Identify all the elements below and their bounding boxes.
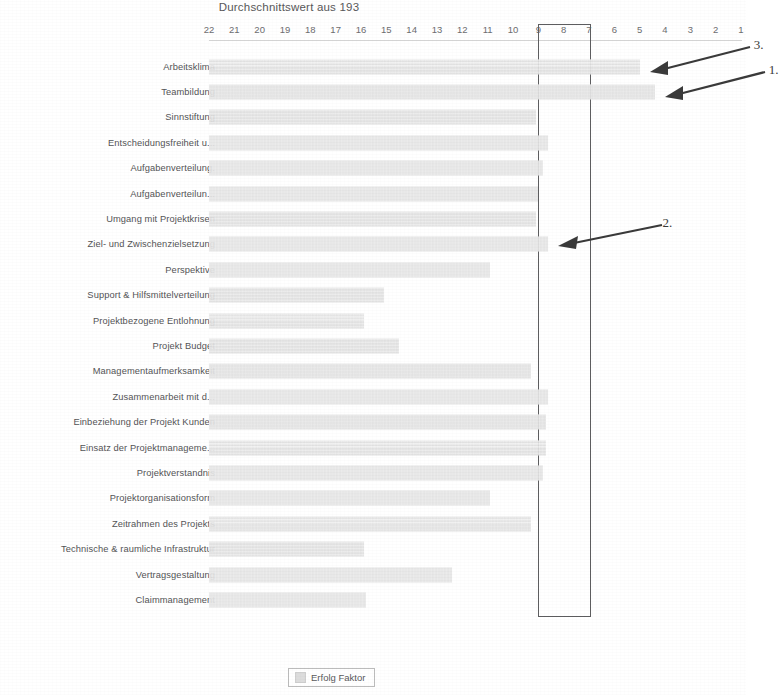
category-label: Projektbezogene Entlohnung [93, 316, 215, 326]
category-label: Projekt Budget [153, 341, 215, 351]
x-tick-17: 17 [330, 24, 341, 35]
bar [209, 186, 538, 201]
bar-row: Projekt Budget [0, 333, 746, 358]
bar [209, 389, 548, 404]
x-tick-15: 15 [381, 24, 392, 35]
x-tick-21: 21 [229, 24, 240, 35]
category-label: Zusammenarbeit mit d... [112, 392, 215, 402]
bar [209, 85, 655, 100]
x-axis-tick-labels: 22212019181716151413121110987654321 [0, 24, 746, 38]
x-tick-11: 11 [483, 24, 493, 35]
bar [209, 440, 546, 455]
category-label: Einsatz der Projektmanageme... [80, 443, 215, 453]
chart-legend: Erfolg Faktor [288, 668, 375, 687]
bar-row: Perspektive [0, 257, 746, 282]
x-tick-5: 5 [637, 24, 642, 35]
x-tick-13: 13 [432, 24, 443, 35]
x-tick-19: 19 [280, 24, 291, 35]
category-label: Aufgabenverteilun... [130, 189, 215, 199]
bar [209, 364, 531, 379]
chart-title-text: Durchschnittswert aus 193 [219, 1, 360, 13]
x-tick-20: 20 [254, 24, 265, 35]
category-label: Entscheidungsfreiheit u... [108, 138, 215, 148]
bar-row: Vertragsgestaltung [0, 562, 746, 587]
bar [209, 491, 490, 506]
x-tick-16: 16 [356, 24, 367, 35]
x-tick-8: 8 [561, 24, 566, 35]
bar-row: Arbeitsklima [0, 54, 746, 79]
bar-row: Aufgabenverteilung. [0, 156, 746, 181]
category-label: Managementaufmerksamkeit [93, 366, 215, 376]
bar [209, 237, 548, 252]
category-label: Vertragsgestaltung [136, 570, 215, 580]
annotation-label-2: 2. [662, 215, 672, 231]
bar-row: Support & Hilfsmittelverteilung [0, 283, 746, 308]
plot-area: ArbeitsklimaTeambildungSinnstiftungEntsc… [0, 44, 746, 659]
bar [209, 516, 531, 531]
x-tick-1: 1 [738, 24, 743, 35]
bar [209, 593, 366, 608]
category-label: Projektorganisationsform [110, 493, 215, 503]
x-tick-9: 9 [536, 24, 541, 35]
x-tick-12: 12 [457, 24, 468, 35]
category-label: Projektverstandnis [137, 468, 215, 478]
x-tick-18: 18 [305, 24, 316, 35]
bar [209, 59, 640, 74]
bar-row: Projektorganisationsform [0, 486, 746, 511]
bar [209, 161, 543, 176]
category-label: Perspektive [165, 265, 215, 275]
category-label: Sinnstiftung [165, 112, 215, 122]
x-tick-6: 6 [612, 24, 617, 35]
bar [209, 567, 452, 582]
bar [209, 339, 399, 354]
x-tick-3: 3 [688, 24, 693, 35]
x-tick-22: 22 [204, 24, 215, 35]
x-tick-7: 7 [586, 24, 591, 35]
bar [209, 466, 543, 481]
bar [209, 212, 536, 227]
x-tick-10: 10 [508, 24, 519, 35]
category-label: Support & Hilfsmittelverteilung [87, 290, 215, 300]
category-label: Ziel- und Zwischenzielsetzung [88, 239, 215, 249]
bar-row: Aufgabenverteilun... [0, 181, 746, 206]
chart-title: Durchschnittswert aus 193 [0, 1, 746, 13]
category-label: Zeitrahmen des Projekts [112, 519, 215, 529]
annotation-label-3: 3. [754, 37, 764, 53]
x-axis-line [209, 40, 742, 41]
bar-row: Einsatz der Projektmanageme... [0, 435, 746, 460]
bar-row: Projektverstandnis [0, 460, 746, 485]
category-label: Einbeziehung der Projekt Kunden [73, 417, 215, 427]
category-label: Umgang mit Projektkrisen [106, 214, 215, 224]
bar [209, 262, 490, 277]
legend-swatch-erfolg-faktor [295, 672, 306, 683]
legend-label-erfolg-faktor: Erfolg Faktor [311, 672, 365, 683]
category-label: Technische & raumliche Infrastruktur [61, 544, 215, 554]
bar-row: Zeitrahmen des Projekts [0, 511, 746, 536]
category-label: Teambildung [161, 87, 215, 97]
bar [209, 542, 364, 557]
category-label: Aufgabenverteilung. [130, 163, 215, 173]
category-label: Arbeitsklima [163, 62, 215, 72]
bar-row: Projektbezogene Entlohnung [0, 308, 746, 333]
bar [209, 110, 536, 125]
bar-row: Managementaufmerksamkeit [0, 359, 746, 384]
bar-row: Claimmanagement [0, 587, 746, 612]
bar-row: Zusammenarbeit mit d... [0, 384, 746, 409]
annotation-label-1: 1. [769, 62, 779, 78]
x-tick-2: 2 [713, 24, 718, 35]
bar-row: Teambildung [0, 79, 746, 104]
bar-row: Sinnstiftung [0, 105, 746, 130]
x-tick-4: 4 [662, 24, 667, 35]
category-label: Claimmanagement [135, 595, 215, 605]
bar-row: Einbeziehung der Projekt Kunden [0, 410, 746, 435]
bar [209, 135, 548, 150]
bar-row: Technische & raumliche Infrastruktur [0, 537, 746, 562]
bar [209, 415, 546, 430]
bar [209, 313, 364, 328]
bar [209, 288, 384, 303]
x-tick-14: 14 [406, 24, 417, 35]
bar-row: Entscheidungsfreiheit u... [0, 130, 746, 155]
